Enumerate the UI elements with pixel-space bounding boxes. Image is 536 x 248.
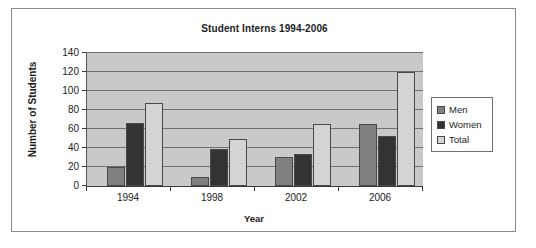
bar-total-2006 bbox=[397, 72, 415, 186]
y-axis-tick-label: 100 bbox=[19, 85, 79, 96]
bar-group bbox=[87, 53, 171, 186]
y-axis-tick-mark bbox=[82, 52, 86, 53]
bar-men-2006 bbox=[359, 124, 377, 186]
x-axis-tick-label: 1994 bbox=[86, 192, 170, 203]
x-axis-tick-label: 2006 bbox=[338, 192, 422, 203]
bar-women-1998 bbox=[210, 149, 228, 186]
bar-group bbox=[255, 53, 339, 186]
y-axis-tick-mark bbox=[82, 90, 86, 91]
bar-total-2002 bbox=[313, 124, 331, 186]
y-axis-tick-label: 40 bbox=[19, 142, 79, 153]
bar-group bbox=[171, 53, 255, 186]
x-axis-tick-mark bbox=[422, 186, 423, 191]
bar-women-2006 bbox=[378, 136, 396, 186]
bar-total-1994 bbox=[145, 103, 163, 186]
bar-total-1998 bbox=[229, 139, 247, 187]
y-axis-tick-label: 80 bbox=[19, 104, 79, 115]
chart-frame: Student Interns 1994-2006 Number of Stud… bbox=[11, 8, 516, 232]
y-axis-tick-mark bbox=[82, 147, 86, 148]
y-axis-tick-label: 20 bbox=[19, 161, 79, 172]
y-axis-tick-label: 0 bbox=[19, 180, 79, 191]
legend-swatch-icon bbox=[437, 121, 445, 129]
y-axis-tick-label: 140 bbox=[19, 47, 79, 58]
legend-label: Men bbox=[449, 104, 467, 115]
x-axis-line bbox=[87, 186, 423, 187]
chart-title: Student Interns 1994-2006 bbox=[12, 23, 517, 34]
y-axis-tick-mark bbox=[82, 128, 86, 129]
legend-swatch-icon bbox=[437, 106, 445, 114]
y-axis-tick-label: 120 bbox=[19, 66, 79, 77]
legend-swatch-icon bbox=[437, 136, 445, 144]
x-axis-tick-label: 2002 bbox=[254, 192, 338, 203]
y-axis-tick-mark bbox=[82, 71, 86, 72]
bar-men-2002 bbox=[275, 157, 293, 186]
bar-women-2002 bbox=[294, 154, 312, 186]
x-axis-tick-mark bbox=[338, 186, 339, 191]
x-axis-tick-mark bbox=[86, 186, 87, 191]
plot-area bbox=[86, 52, 423, 186]
x-axis-tick-mark bbox=[254, 186, 255, 191]
y-axis-tick-mark bbox=[82, 109, 86, 110]
y-axis-tick-label: 60 bbox=[19, 123, 79, 134]
bar-men-1998 bbox=[191, 177, 209, 187]
y-axis-tick-mark bbox=[82, 166, 86, 167]
legend-label: Total bbox=[449, 134, 469, 145]
x-axis-title: Year bbox=[86, 213, 422, 224]
legend-item-men: Men bbox=[437, 102, 488, 117]
bar-group bbox=[339, 53, 423, 186]
legend-label: Women bbox=[449, 119, 482, 130]
chart-image: Student Interns 1994-2006 Number of Stud… bbox=[0, 0, 536, 248]
legend-item-women: Women bbox=[437, 117, 488, 132]
chart-legend: MenWomenTotal bbox=[431, 97, 493, 152]
legend-item-total: Total bbox=[437, 132, 488, 147]
bar-women-1994 bbox=[126, 123, 144, 186]
x-axis-tick-mark bbox=[170, 186, 171, 191]
bar-men-1994 bbox=[107, 167, 125, 186]
x-axis-tick-label: 1998 bbox=[170, 192, 254, 203]
